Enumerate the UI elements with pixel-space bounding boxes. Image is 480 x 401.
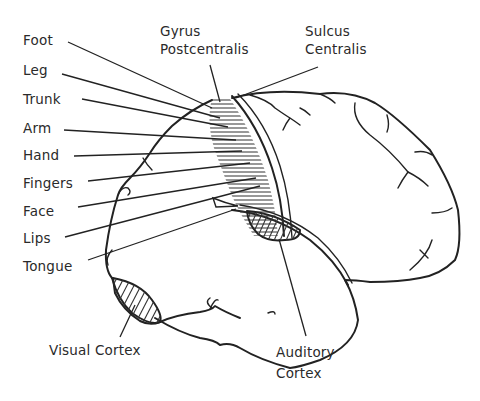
visual-hatch-line (188, 272, 218, 330)
leader-leg (62, 74, 220, 118)
label-gyrus-line1: Gyrus (160, 23, 201, 39)
visual-cortex-hatching (90, 272, 218, 330)
label-sulcus-line2: Centralis (305, 41, 367, 57)
sulcus-frontal-4 (415, 151, 432, 155)
brain-diagram: Foot Leg Trunk Arm Hand Fingers Face Lip… (0, 0, 480, 401)
sulcus-frontal-6 (432, 208, 452, 213)
visual-hatch-line (90, 272, 120, 330)
sulcus-frontal-1 (320, 94, 335, 103)
label-auditory-line1: Auditory (276, 344, 335, 360)
leader-face (78, 178, 256, 207)
label-face: Face (23, 203, 54, 219)
label-gyrus-line2: Postcentralis (160, 41, 249, 57)
label-trunk: Trunk (23, 91, 61, 107)
label-sulcus-line1: Sulcus (305, 23, 350, 39)
visual-hatch-line (174, 272, 204, 330)
sulcus-temporal-2 (268, 312, 275, 314)
leader-lines (62, 42, 318, 337)
auditory-hatch-line (308, 205, 326, 245)
leader-arm (64, 130, 236, 140)
label-visual-cortex: Visual Cortex (49, 342, 141, 358)
auditory-hatch-line (314, 205, 332, 245)
sulcus-parietal-1 (250, 95, 300, 130)
leader-auditory (279, 239, 306, 336)
label-lips: Lips (23, 230, 51, 246)
sulcus-frontal-2 (355, 103, 408, 172)
visual-hatch-line (153, 272, 183, 330)
label-tongue: Tongue (23, 258, 72, 274)
lateral-sulcus-inner (240, 205, 352, 283)
label-fingers: Fingers (23, 175, 73, 191)
gyrus-hatching (200, 100, 290, 236)
sulcus-frontal-5 (398, 172, 428, 188)
sulcus-notch (213, 198, 238, 207)
brain-drawing (0, 0, 480, 401)
leader-hand (74, 151, 242, 156)
sulcus-parietal-2 (300, 108, 310, 115)
label-auditory-line2: Cortex (276, 365, 322, 381)
occipital-bottom (112, 278, 240, 323)
sulcus-parietal-4 (118, 188, 130, 195)
auditory-hatch-line (320, 205, 338, 245)
auditory-hatch-line (302, 205, 320, 245)
label-arm: Arm (23, 120, 51, 136)
visual-hatch-line (160, 272, 190, 330)
leader-tongue (88, 209, 236, 260)
sulcus-parietal-3 (143, 158, 152, 170)
visual-hatch-line (139, 272, 169, 330)
label-leg: Leg (23, 62, 48, 78)
leader-gyrus (210, 65, 220, 102)
sulcus-frontal-3 (387, 115, 389, 132)
visual-hatch-line (167, 272, 197, 330)
sulcus-frontal-7 (410, 240, 432, 270)
label-foot: Foot (23, 32, 53, 48)
label-hand: Hand (23, 147, 59, 163)
visual-hatch-line (181, 272, 211, 330)
